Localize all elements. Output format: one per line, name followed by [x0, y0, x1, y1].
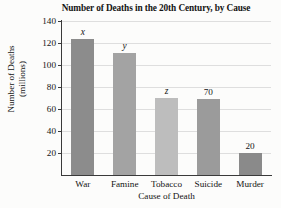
x-tick-label-suicide: Suicide: [195, 179, 223, 189]
y-tick-label: 20: [47, 148, 56, 158]
y-tick-label: 60: [47, 104, 56, 114]
chart-figure: Number of Deaths in the 20th Century, by…: [0, 0, 281, 208]
y-axis-title: Number of Deaths (millions): [6, 14, 30, 144]
plot-area: 20406080100120140 xyz7020: [62, 21, 271, 175]
y-tick-mark: [58, 43, 62, 44]
bar-value-label: y: [123, 41, 127, 51]
y-tick-mark: [58, 87, 62, 88]
y-tick-mark: [58, 21, 62, 22]
y-tick-mark: [58, 109, 62, 110]
x-tick-label-tobacco: Tobacco: [151, 179, 182, 189]
y-tick-mark: [58, 131, 62, 132]
chart-title: Number of Deaths in the 20th Century, by…: [34, 3, 278, 14]
x-axis-title: Cause of Death: [62, 191, 271, 201]
bar-murder: 20: [239, 153, 262, 175]
y-axis-title-line1: Number of Deaths: [6, 45, 16, 112]
y-tick-mark: [58, 65, 62, 66]
x-tick-label-war: War: [75, 179, 90, 189]
bar-war: x: [71, 39, 94, 175]
bar-value-label: z: [165, 86, 169, 96]
bar-value-label: 70: [204, 87, 213, 97]
y-axis-title-line2: (millions): [17, 14, 28, 144]
gridline: [62, 21, 271, 22]
bar-tobacco: z: [155, 98, 178, 175]
bar-value-label: x: [81, 27, 85, 37]
x-tick-label-murder: Murder: [236, 179, 264, 189]
bar-famine: y: [113, 53, 136, 175]
y-tick-label: 40: [47, 126, 56, 136]
bar-value-label: 20: [246, 141, 255, 151]
x-axis-line: [61, 175, 272, 176]
y-tick-label: 80: [47, 82, 56, 92]
y-tick-label: 120: [42, 38, 56, 48]
x-tick-label-famine: Famine: [111, 179, 139, 189]
y-tick-mark: [58, 153, 62, 154]
bar-suicide: 70: [197, 99, 220, 175]
y-tick-label: 100: [42, 60, 56, 70]
y-tick-label: 140: [42, 16, 56, 26]
